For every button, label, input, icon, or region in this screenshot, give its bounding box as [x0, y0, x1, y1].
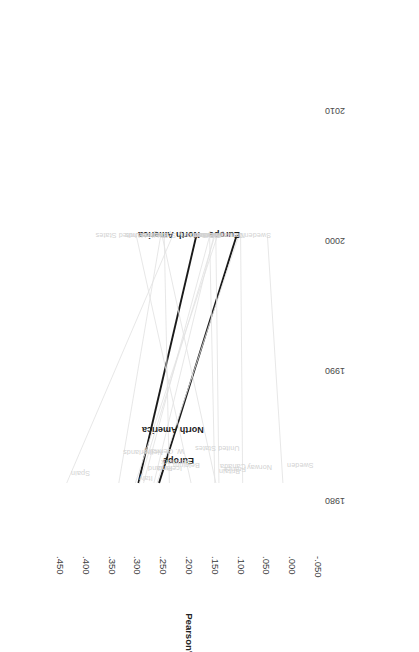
- chart-plot-area: North AmericaEuropeSpainNetherlandsItaly…: [0, 0, 372, 600]
- series-label-north-america-left: North America: [142, 426, 204, 434]
- y-tick-300: .300: [132, 556, 143, 575]
- trend-line-belgium: [164, 236, 169, 483]
- series-label-france-right: France: [197, 231, 220, 239]
- series-label-sweden-left: Sweden: [287, 461, 314, 469]
- trend-line-netherlands: [119, 236, 161, 483]
- y-tick-250: .250: [158, 556, 169, 575]
- trend-line-norway: [241, 236, 243, 483]
- y-tick-050: .050: [261, 556, 272, 575]
- y-tick-000: .000: [287, 556, 298, 575]
- figure-2-5: North AmericaEuropeSpainNetherlandsItaly…: [0, 0, 419, 652]
- y-tick-150: .150: [209, 556, 220, 575]
- series-label-norway-right: Norway: [220, 231, 245, 239]
- series-label-sweden-right: Sweden: [245, 231, 272, 239]
- series-label-united-states-left: United States: [195, 444, 239, 452]
- y-tick-050: -.050: [313, 556, 324, 578]
- x-tick-1990: 1990: [325, 366, 345, 376]
- series-label-norway-left: Norway: [247, 463, 272, 471]
- y-tick-100: .100: [235, 556, 246, 575]
- x-tick-2000: 2000: [325, 236, 345, 246]
- y-tick-400: .400: [80, 556, 91, 575]
- series-label-italy-left: Italy: [139, 474, 153, 482]
- y-tick-200: .200: [184, 556, 195, 575]
- trend-line-north-america: [138, 236, 196, 483]
- x-tick-1980: 1980: [325, 496, 345, 506]
- trend-line-sweden: [267, 236, 282, 483]
- trend-line-united-states: [136, 236, 191, 483]
- series-label-united-states-right: United States: [96, 231, 140, 239]
- rotated-chart-wrapper: North AmericaEuropeSpainNetherlandsItaly…: [0, 0, 372, 600]
- x-tick-2010: 2010: [325, 106, 345, 116]
- series-label-spain-left: Spain: [71, 469, 90, 477]
- y-tick-450: .450: [55, 556, 66, 575]
- y-axis-title: Pearson's R: [184, 613, 195, 652]
- y-tick-350: .350: [106, 556, 117, 575]
- series-label-canada-right: Canada: [140, 231, 166, 239]
- series-label-w-germany-left: W. Germany: [143, 447, 184, 455]
- series-label-france-left: France: [223, 465, 246, 473]
- trend-lines-svg: [0, 0, 372, 600]
- trend-line-spain: [67, 236, 173, 483]
- series-label-belgium-left: Belgium: [173, 461, 200, 469]
